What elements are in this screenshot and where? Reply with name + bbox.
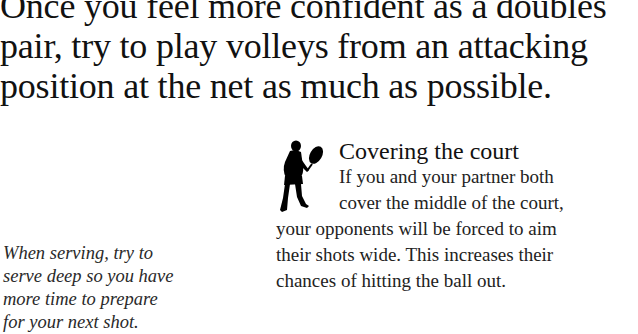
body-line: chances of hitting the ball out. bbox=[276, 268, 638, 294]
caption-line: serve deep so you have bbox=[3, 265, 253, 288]
lead-line: pair, try to play volleys from an attack… bbox=[0, 26, 638, 66]
caption-line: When serving, try to bbox=[3, 242, 253, 265]
serving-tip-caption: When serving, try to serve deep so you h… bbox=[3, 242, 253, 334]
body-line: If you and your partner both bbox=[276, 164, 638, 190]
caption-line: more time to prepare bbox=[3, 288, 253, 311]
section-title: Covering the court bbox=[339, 138, 519, 164]
lead-line: position at the net as much as possible. bbox=[0, 66, 638, 106]
lead-line: Once you feel more confident as a double… bbox=[0, 0, 638, 26]
body-line: your opponents will be forced to aim bbox=[276, 216, 638, 242]
section-body: If you and your partner both cover the m… bbox=[276, 164, 638, 294]
body-line: cover the middle of the court, bbox=[276, 190, 638, 216]
caption-line: for your next shot. bbox=[3, 311, 253, 334]
body-line: their shots wide. This increases their bbox=[276, 242, 638, 268]
lead-paragraph: Once you feel more confident as a double… bbox=[0, 0, 638, 106]
